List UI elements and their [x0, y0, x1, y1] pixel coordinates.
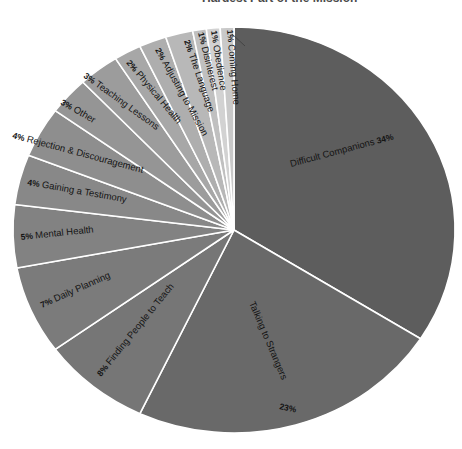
chart-title-clipped: Hardest Part of the Mission — [0, 0, 462, 5]
chart-title: Hardest Part of the Mission — [202, 0, 357, 4]
pie-chart-figure: Hardest Part of the Mission Difficult Co… — [0, 0, 462, 449]
pie-chart-svg: Difficult Companions 34%Talking to Stran… — [0, 0, 462, 449]
